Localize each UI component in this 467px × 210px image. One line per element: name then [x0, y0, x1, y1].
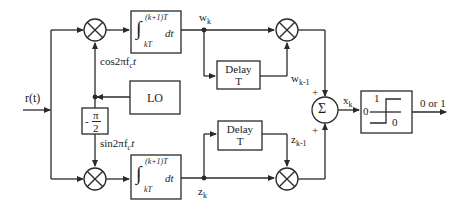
zk-sub: k: [203, 191, 207, 200]
sin-t: t: [131, 137, 134, 149]
wk-label: wk: [199, 12, 211, 26]
plus-top: +: [312, 87, 318, 98]
sin-carrier-label: sin2πfct: [100, 138, 134, 152]
cos-text: cos2πf: [100, 55, 129, 67]
input-signal-label: r(t): [25, 92, 40, 104]
wk-sub: k: [207, 17, 211, 26]
integral-symbol: ∫: [136, 18, 141, 38]
phase-num: π: [93, 110, 99, 121]
diagram-wires: [0, 0, 467, 210]
cos-t: t: [133, 55, 136, 67]
delay-period: T: [237, 135, 244, 147]
xk-sub: k: [349, 100, 353, 109]
summer-symbol: Σ: [318, 102, 326, 116]
decision-output-label: 0 or 1: [420, 98, 446, 109]
decision-high: 1: [374, 93, 380, 104]
zk-label: zk: [198, 186, 207, 200]
zk-1-label: zk-1: [291, 134, 307, 148]
zk1-sub: k-1: [296, 139, 307, 148]
wk1-sub: k-1: [299, 78, 310, 87]
upper-limit: (k+1)T: [145, 158, 168, 166]
sin-text: sin2πf: [100, 137, 128, 149]
delay-text: Delay: [225, 63, 251, 75]
lower-limit: kT: [144, 41, 152, 49]
plus-bottom: +: [312, 125, 318, 136]
local-oscillator-label: LO: [147, 92, 163, 104]
integrator-bottom: ∫ (k+1)T kT dt: [131, 155, 181, 199]
integrator-top: ∫ (k+1)T kT dt: [131, 11, 181, 53]
decision-threshold: 0: [363, 106, 369, 117]
integrand: dt: [165, 173, 174, 184]
delay-text: Delay: [227, 123, 253, 135]
lower-limit: kT: [144, 186, 152, 194]
phase-den: 2: [93, 123, 99, 134]
delay-bottom-block: DelayT: [218, 123, 262, 147]
delay-top-block: DelayT: [217, 63, 260, 87]
phase-sign: -: [85, 116, 89, 127]
decision-low: 0: [392, 117, 398, 128]
integral-symbol: ∫: [136, 163, 141, 183]
delay-period: T: [235, 75, 242, 87]
wk1-text: w: [291, 72, 299, 84]
wk-1-label: wk-1: [291, 73, 310, 87]
dpsk-demodulator-diagram: r(t) cos2πfct sin2πfct LO - π 2 ∫ (k+1)T…: [0, 0, 467, 210]
xk-label: xk: [343, 95, 353, 109]
wk-text: w: [199, 11, 207, 23]
upper-limit: (k+1)T: [145, 14, 168, 22]
cos-carrier-label: cos2πfct: [100, 56, 136, 70]
integrand: dt: [165, 28, 174, 39]
